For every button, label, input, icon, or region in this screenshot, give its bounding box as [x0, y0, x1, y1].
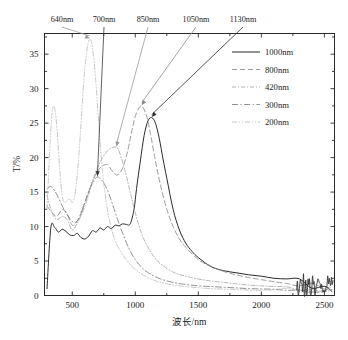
plot-frame [45, 34, 335, 296]
y-tick-label: 35 [30, 49, 40, 59]
curve-noise-tail [297, 274, 333, 297]
y-tick-label: 5 [34, 256, 39, 266]
chart-legend: 1000nm800nm420nm300nm200nm [232, 47, 293, 127]
curve-200nm [47, 39, 332, 293]
x-axis-title: 波长/nm [172, 316, 207, 327]
annotation-leader-850nm [116, 27, 148, 144]
curve-800nm [47, 106, 332, 290]
annotation-label-850nm: 850nm [137, 15, 160, 24]
legend-label-800nm: 800nm [265, 65, 289, 75]
curve-1000nm [47, 118, 332, 292]
x-tick-label: 1000 [126, 300, 145, 310]
y-axis-title: T/% [12, 156, 22, 172]
x-tick-label: 500 [65, 300, 79, 310]
y-tick-label: 0 [34, 291, 39, 301]
figure-container: 5001000150020002500 05101520253035 640nm… [0, 0, 348, 340]
y-tick-label: 20 [30, 153, 40, 163]
annotation-leader-1130nm [152, 27, 243, 115]
annotation-label-1130nm: 1130nm [230, 15, 257, 24]
legend-label-1000nm: 1000nm [265, 47, 293, 57]
y-tick-label: 25 [30, 118, 40, 128]
annotation-label-700nm: 700nm [93, 15, 116, 24]
x-tick-label: 2500 [315, 300, 334, 310]
legend-label-200nm: 200nm [265, 117, 289, 127]
legend-label-420nm: 420nm [265, 82, 289, 92]
x-tick-label: 2000 [252, 300, 271, 310]
legend-label-300nm: 300nm [265, 100, 289, 110]
annotation-label-1050nm: 1050nm [183, 15, 210, 24]
y-axis-ticks: 05101520253035 [30, 37, 335, 301]
annotation-labels: 640nm700nm850nm1050nm1130nm [51, 15, 257, 24]
annotation-leaders [62, 27, 243, 176]
x-tick-label: 1500 [189, 300, 208, 310]
annotation-leader-1050nm [142, 27, 196, 103]
annotation-leader-640nm [62, 27, 90, 36]
x-axis-ticks: 5001000150020002500 [65, 34, 333, 310]
annotation-arrowhead-850nm [116, 141, 120, 147]
y-tick-label: 30 [30, 84, 40, 94]
curve-420nm [47, 147, 332, 292]
y-tick-label: 10 [30, 222, 40, 232]
annotation-label-640nm: 640nm [51, 15, 74, 24]
annotation-arrowhead-1050nm [142, 100, 146, 106]
y-tick-label: 15 [30, 187, 40, 197]
transmittance-spectra-chart: 5001000150020002500 05101520253035 640nm… [0, 0, 348, 340]
